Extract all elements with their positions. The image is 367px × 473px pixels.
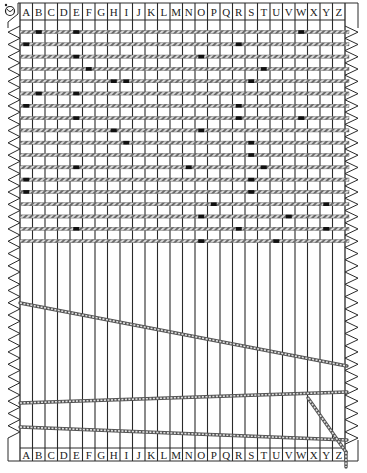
rope-mark — [111, 129, 117, 133]
column-label-top: V — [285, 6, 293, 18]
column-label-top: Q — [222, 6, 230, 18]
rope-mark — [23, 178, 29, 182]
column-label-bottom: T — [260, 449, 267, 461]
rope-strand — [20, 92, 349, 95]
hanging-rope — [308, 398, 346, 452]
horizontal-rope — [20, 141, 349, 145]
diagonal-rope-3 — [20, 427, 347, 440]
horizontal-rope — [20, 190, 349, 194]
rope-mark — [23, 104, 29, 108]
rope-mark — [236, 227, 242, 231]
column-label-bottom: Y — [322, 449, 330, 461]
column-label-top: T — [260, 6, 267, 18]
column-label-top: N — [185, 6, 193, 18]
horizontal-rope — [20, 116, 349, 120]
column-label-top: F — [86, 6, 92, 18]
column-label-bottom: M — [171, 449, 181, 461]
rope-strand — [20, 43, 349, 46]
column-label-top: P — [211, 6, 217, 18]
column-label-bottom: X — [310, 449, 318, 461]
rope-mark — [73, 92, 79, 96]
rope-mark — [23, 190, 29, 194]
loose-ropes — [20, 303, 347, 467]
column-label-bottom: H — [110, 449, 118, 461]
diagonal-rope-1 — [20, 303, 347, 366]
horizontal-rope — [20, 79, 349, 83]
rope-mark — [248, 141, 254, 145]
column-label-bottom: U — [272, 449, 280, 461]
horizontal-rope — [20, 178, 349, 182]
rope-strand — [20, 153, 349, 156]
rope-mark — [36, 30, 42, 34]
column-label-top: R — [235, 6, 243, 18]
rope-mark — [73, 30, 79, 34]
rope-mark — [123, 79, 129, 83]
rope-mark — [261, 67, 267, 71]
column-label-top: C — [48, 6, 55, 18]
column-label-top: K — [147, 6, 155, 18]
horizontal-rope — [20, 92, 349, 96]
column-label-bottom: G — [97, 449, 105, 461]
column-label-bottom: I — [124, 449, 128, 461]
horizontal-rope — [20, 67, 349, 71]
rope-strand — [20, 215, 349, 218]
column-label-top: X — [310, 6, 318, 18]
horizontal-rope — [20, 153, 349, 157]
column-label-bottom: Z — [335, 449, 342, 461]
cipher-board: ABCDEFGHIJKLMNOPQRSTUVWXYZ ABCDEFGHIJKLM… — [0, 0, 367, 473]
rope-mark — [286, 215, 292, 219]
column-label-bottom: Q — [222, 449, 230, 461]
horizontal-rope — [20, 104, 349, 108]
rope-strand — [20, 104, 349, 107]
rope-mark — [248, 178, 254, 182]
horizontal-rope — [20, 129, 349, 133]
rope-mark — [111, 79, 117, 83]
rope-mark — [23, 43, 29, 47]
column-label-bottom: V — [285, 449, 293, 461]
rope-mark — [211, 202, 217, 206]
rope-strand — [20, 203, 349, 206]
rope-mark — [198, 215, 204, 219]
column-label-bottom: D — [60, 449, 68, 461]
rope-mark — [298, 30, 304, 34]
column-label-bottom: R — [235, 449, 243, 461]
rope-mark — [261, 166, 267, 170]
horizontal-rope — [20, 227, 349, 231]
rope-mark — [73, 55, 79, 59]
rope-mark — [323, 227, 329, 231]
column-label-bottom: F — [86, 449, 92, 461]
column-label-bottom: K — [147, 449, 155, 461]
rope-mark — [298, 116, 304, 120]
rope-mark — [198, 55, 204, 59]
horizontal-rope — [20, 202, 349, 206]
rope-strand — [20, 227, 349, 230]
rope-strand — [20, 80, 349, 83]
column-label-top: B — [35, 6, 42, 18]
rope-strand — [20, 55, 349, 58]
rope-strand — [20, 166, 349, 169]
horizontal-rope — [20, 55, 349, 59]
column-label-top: U — [272, 6, 280, 18]
column-label-top: A — [22, 6, 30, 18]
rope-strand — [20, 129, 349, 132]
column-label-bottom: O — [197, 449, 205, 461]
rope-mark — [86, 67, 92, 71]
horizontal-rope — [20, 166, 349, 170]
diagonal-rope-2 — [20, 392, 347, 403]
column-label-bottom: C — [48, 449, 55, 461]
column-label-top: G — [97, 6, 105, 18]
rope-mark — [123, 141, 129, 145]
column-label-top: D — [60, 6, 68, 18]
rope-mark — [73, 227, 79, 231]
rope-mark — [273, 239, 279, 243]
column-label-top: S — [248, 6, 254, 18]
rope-strand — [20, 67, 349, 70]
column-label-top: L — [160, 6, 167, 18]
rope-mark — [323, 202, 329, 206]
column-label-bottom: N — [185, 449, 193, 461]
horizontal-ropes — [20, 30, 349, 243]
column-label-bottom: E — [73, 449, 80, 461]
rope-mark — [236, 43, 242, 47]
column-label-bottom: L — [160, 449, 167, 461]
rope-mark — [236, 104, 242, 108]
